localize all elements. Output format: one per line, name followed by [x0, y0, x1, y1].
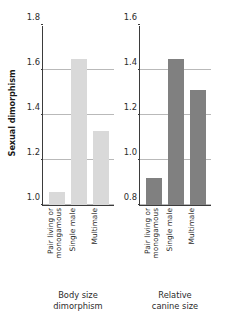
panel-caption-line1: Body size: [28, 290, 128, 301]
x-axis-labels-right: Pair living or monogamous Single male Mu…: [139, 208, 211, 282]
panel-caption-right: Relative canine size: [125, 290, 225, 312]
x-tick-label: Multimale: [91, 208, 99, 282]
bar: [71, 59, 87, 205]
panel-relative-canine-size: 0.8 1.0 1.2 1.4 1.6 Pair living or monog…: [139, 26, 211, 206]
y-tick-mark: [138, 24, 141, 25]
bar-group-left: [43, 26, 114, 205]
bar: [93, 131, 109, 205]
bar: [190, 90, 206, 205]
y-tick-label: 1.0: [124, 147, 137, 155]
y-tick-label: 1.6: [124, 12, 137, 20]
bar: [49, 192, 65, 206]
y-tick-label: 1.4: [27, 102, 40, 110]
y-axis-title: Sexual dimorphism: [7, 53, 17, 173]
bar: [168, 59, 184, 205]
bar: [146, 178, 162, 205]
bar-group-right: [140, 26, 211, 205]
x-tick-label-line1: Single male: [68, 208, 77, 251]
y-tick-mark: [41, 24, 44, 25]
x-tick-label-line1: Single male: [165, 208, 174, 251]
x-tick-label: Pair living or monogamous: [144, 208, 161, 282]
plot-area-right: 0.8 1.0 1.2 1.4 1.6: [139, 26, 211, 206]
y-tick-label: 1.4: [124, 57, 137, 65]
y-tick-label: 1.0: [27, 192, 40, 200]
panel-caption-left: Body size dimorphism: [28, 290, 128, 312]
y-tick-label: 1.2: [124, 102, 137, 110]
panel-caption-line2: dimorphism: [28, 301, 128, 312]
x-tick-label: Single male: [69, 208, 77, 282]
panel-caption-line2: canine size: [125, 301, 225, 312]
x-tick-label-line1: Multimale: [187, 208, 196, 244]
panel-body-size-dimorphism: 1.0 1.2 1.4 1.6 1.8 Pair living or monog…: [42, 26, 114, 206]
y-tick-label: 1.8: [27, 12, 40, 20]
y-tick-label: 1.6: [27, 57, 40, 65]
x-tick-label-line1: Multimale: [90, 208, 99, 244]
x-tick-label: Pair living or monogamous: [47, 208, 64, 282]
panel-caption-line1: Relative: [125, 290, 225, 301]
x-tick-label: Multimale: [188, 208, 196, 282]
x-tick-label-line2: monogamous: [55, 208, 63, 282]
y-tick-label: 0.8: [124, 192, 137, 200]
x-axis-labels-left: Pair living or monogamous Single male Mu…: [42, 208, 114, 282]
y-tick-label: 1.2: [27, 147, 40, 155]
x-tick-label-line2: monogamous: [152, 208, 160, 282]
plot-area-left: 1.0 1.2 1.4 1.6 1.8: [42, 26, 114, 206]
x-tick-label: Single male: [166, 208, 174, 282]
figure: Sexual dimorphism 1.0 1.2 1.4 1.6 1.8: [0, 0, 228, 322]
